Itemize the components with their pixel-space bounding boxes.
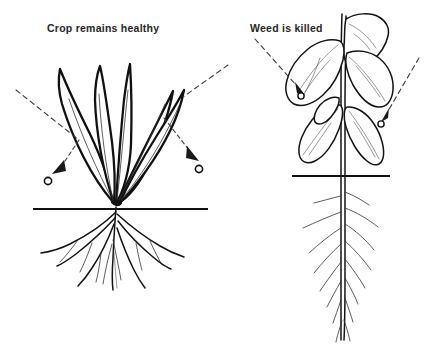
weed-droplet-left (298, 93, 304, 99)
crop-caption: Crop remains healthy (47, 22, 159, 34)
diagram-canvas: Crop remains healthy (0, 0, 427, 353)
herbicide-selectivity-diagram: Crop remains healthy (0, 0, 427, 353)
weed-caption: Weed is killed (250, 22, 323, 34)
weed-droplet-right (378, 121, 384, 127)
crop-droplet-left (44, 177, 51, 184)
crop-droplet-right (195, 165, 202, 172)
